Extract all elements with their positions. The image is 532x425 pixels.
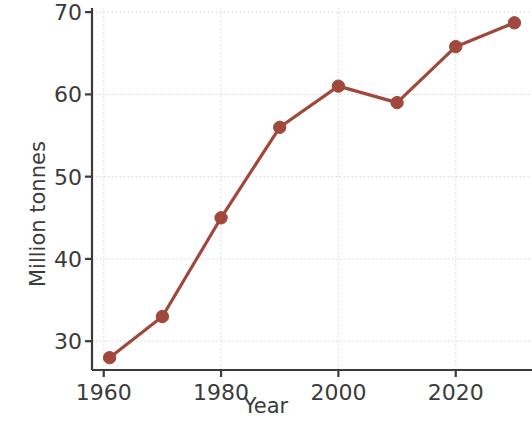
data-point [450,40,462,52]
data-point [391,96,403,108]
plot-area [0,0,532,425]
y-tick-label: 60 [34,82,82,107]
y-tick-label: 70 [34,0,82,25]
y-tick-label: 30 [34,329,82,354]
data-point [215,212,227,224]
data-point [274,121,286,133]
y-axis-title: Million tonnes [26,141,50,287]
x-axis-title: Year [0,394,532,418]
data-point [103,351,115,363]
data-point [332,80,344,92]
data-series [103,17,520,364]
axis-ticks [85,12,456,377]
line-chart: 3040506070 1960198020002020 Million tonn… [0,0,532,425]
data-point [156,310,168,322]
data-point [508,17,520,29]
